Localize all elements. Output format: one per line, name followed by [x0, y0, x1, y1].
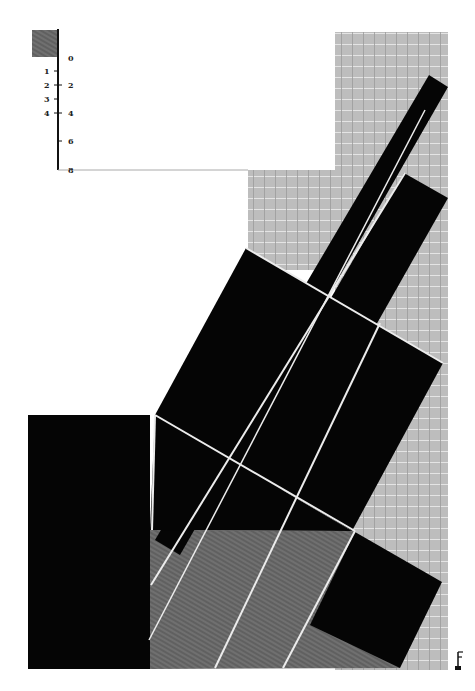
scale-label: 6: [68, 136, 74, 146]
scale-label: 1: [44, 66, 50, 76]
scale-label: 2: [68, 80, 74, 90]
scale-label: 3: [44, 94, 50, 104]
scale-labels-right: 0 2 4 6 8: [68, 53, 74, 175]
scale-label: 8: [68, 165, 74, 175]
scale-bar: [54, 29, 248, 170]
scale-label: 4: [44, 108, 50, 118]
scale-label: 2: [44, 80, 50, 90]
scale-label: 4: [68, 108, 74, 118]
composition-canvas: 1 2 3 4 0 2 4 6 8: [0, 0, 475, 691]
corner-mark-icon: [455, 652, 463, 670]
scale-label: 0: [68, 53, 74, 63]
legend-swatch: [32, 30, 58, 57]
black-block-left: [28, 415, 150, 669]
scale-labels-left: 1 2 3 4: [44, 66, 50, 118]
